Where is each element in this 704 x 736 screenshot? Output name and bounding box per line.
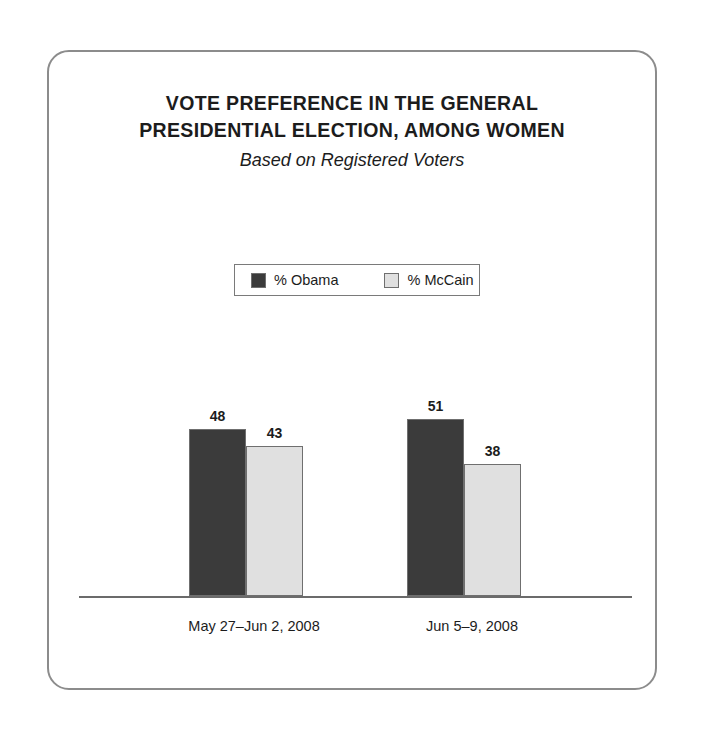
bar-obama-1[interactable] — [407, 419, 464, 596]
bar-group: 51 38 — [407, 296, 537, 596]
chart-card: VOTE PREFERENCE IN THE GENERAL PRESIDENT… — [47, 50, 657, 690]
bar-value-mccain-0: 43 — [246, 425, 303, 441]
x-axis-label-0: May 27–Jun 2, 2008 — [139, 618, 369, 634]
bar-mccain-0[interactable] — [246, 446, 303, 596]
chart-plot-area: 48 43 51 38 May 27–Jun 2, 2008 Jun 5–9, … — [49, 52, 655, 688]
bar-obama-0[interactable] — [189, 429, 246, 596]
x-axis-line — [79, 596, 632, 598]
bar-value-obama-1: 51 — [407, 398, 464, 414]
bar-value-obama-0: 48 — [189, 408, 246, 424]
x-axis-label-1: Jun 5–9, 2008 — [357, 618, 587, 634]
bar-value-mccain-1: 38 — [464, 443, 521, 459]
bar-mccain-1[interactable] — [464, 464, 521, 596]
bar-group: 48 43 — [189, 296, 319, 596]
